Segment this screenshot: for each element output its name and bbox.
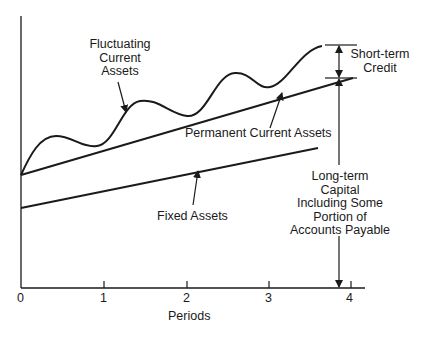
fluctuating-pointer-arrow (118, 82, 126, 112)
fixed-label: Fixed Assets (157, 210, 228, 224)
fixed-pointer-arrow (193, 171, 198, 205)
short-term-label: Short-term Credit (342, 48, 418, 75)
x-tick-4: 4 (346, 291, 353, 305)
x-tick-3: 3 (265, 291, 272, 305)
permanent-label: Permanent Current Assets (185, 127, 332, 141)
x-tick-0: 0 (17, 291, 24, 305)
long-term-label: Long-term Capital Including Some Portion… (290, 170, 390, 238)
fixed-assets-line (21, 148, 318, 208)
x-tick-1: 1 (100, 291, 107, 305)
x-axis-ticks (104, 281, 351, 288)
diagram: 0 1 2 3 4 Periods Fluctuating Current As… (0, 0, 421, 337)
permanent-pointer-arrow (270, 93, 282, 128)
x-axis-label: Periods (168, 309, 210, 323)
x-tick-2: 2 (183, 291, 190, 305)
fluctuating-label: Fluctuating Current Assets (80, 38, 160, 79)
